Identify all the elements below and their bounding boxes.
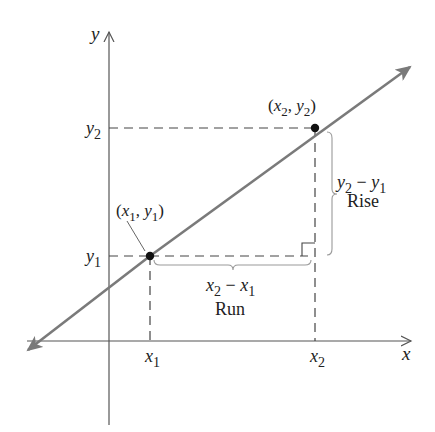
point-2 [311, 124, 319, 132]
y1-tick-label: y1 [84, 246, 101, 270]
rise-brace [327, 132, 337, 255]
point-1-label: (x1, y1) [116, 201, 164, 224]
run-brace [154, 260, 311, 270]
line-left-segment [28, 256, 150, 350]
point-1 [146, 252, 154, 260]
point-1-leader [127, 221, 145, 251]
slope-diagram: y x y2 y1 x1 x2 (x1, y1) (x2, y2) y2 − y… [0, 0, 435, 432]
rise-label: Rise [347, 191, 379, 211]
x1-tick-label: x1 [144, 346, 160, 370]
x2-tick-label: x2 [309, 346, 325, 370]
run-label: Run [215, 299, 245, 319]
x-axis-label: x [401, 343, 411, 364]
point-2-label: (x2, y2) [268, 96, 316, 119]
y2-tick-label: y2 [84, 118, 101, 142]
right-angle-marker [302, 243, 315, 256]
run-expression: x2 − x1 [205, 275, 255, 299]
y-axis-label: y [89, 23, 100, 44]
